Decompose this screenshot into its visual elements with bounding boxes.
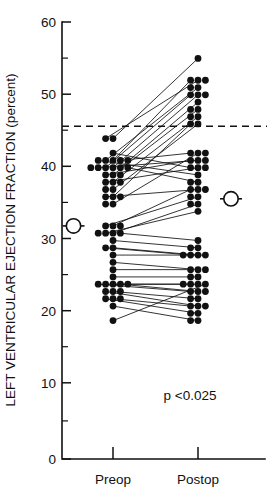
data-point-postop [195,106,202,113]
data-point-preop [110,244,117,251]
data-point-preop [102,135,109,142]
data-point-postop [195,237,202,244]
data-point-postop [195,193,202,200]
pair-connector [113,306,198,321]
data-point-postop [187,201,194,208]
data-point-postop [202,186,209,193]
data-point-postop [202,150,209,157]
data-point-preop [117,179,124,186]
data-point-postop [202,164,209,171]
data-point-postop [187,317,194,324]
x-tick-label-preop: Preop [95,472,131,487]
data-point-postop [202,157,209,164]
x-axis-ticks [113,447,198,459]
mean-marker-postop [220,192,242,206]
data-point-preop [110,186,117,193]
data-point-postop [187,77,194,84]
data-point-preop [102,230,109,237]
data-point-postop [195,157,202,164]
data-point-preop [95,157,102,164]
data-point-preop [124,281,131,288]
data-point-postop [195,179,202,186]
data-point-preop [124,164,131,171]
data-point-postop [195,113,202,120]
chart-figure: LEFT VENTRICULAR EJECTION FRACTION (perc… [0,0,267,495]
pair-connector [120,102,198,168]
data-point-postop [187,274,194,281]
data-point-postop [195,55,202,62]
data-point-preop [102,244,109,251]
data-point-postop [195,208,202,215]
data-point-preop [95,230,102,237]
data-point-postop [187,303,194,310]
data-point-preop [110,252,117,259]
data-point-preop [102,172,109,179]
data-point-preop [102,201,109,208]
data-point-postop [195,244,202,251]
pair-connector [113,262,198,269]
pair-connector [106,211,198,233]
data-point-postop [187,186,194,193]
data-point-postop [195,99,202,106]
data-point-postop [195,186,202,193]
data-point-postop [202,303,209,310]
data-point-postop [187,252,194,259]
data-point-preop [110,150,117,157]
data-point-postop [187,113,194,120]
y-axis-major-ticks [62,22,71,459]
data-point-postop [180,281,187,288]
data-point-postop [195,274,202,281]
data-point-preop [117,172,124,179]
data-point-preop [117,288,124,295]
data-point-postop [187,164,194,171]
data-point-preop [110,164,117,171]
y-tick-label-20: 20 [41,304,56,319]
data-point-preop [110,259,117,266]
data-point-postop [187,91,194,98]
data-point-preop [110,317,117,324]
pair-connector [113,241,198,248]
data-point-preop [117,193,124,200]
data-point-postop [195,91,202,98]
data-point-postop [195,288,202,295]
data-point-postop [195,201,202,208]
data-point-postop [202,252,209,259]
data-point-postop [187,288,194,295]
data-point-preop [95,164,102,171]
data-point-preop [117,230,124,237]
p-value-annotation: p <0.025 [164,388,217,403]
data-point-preop [110,274,117,281]
data-point-postop [202,281,209,288]
data-point-preop [102,193,109,200]
data-point-postop [187,193,194,200]
data-point-postop [187,157,194,164]
data-point-preop [102,223,109,230]
data-point-preop [102,164,109,171]
data-point-preop [110,295,117,302]
paired-dot-plot-svg: LEFT VENTRICULAR EJECTION FRACTION (perc… [0,0,267,495]
data-point-preop [110,281,117,288]
data-point-preop [102,186,109,193]
pair-connector [106,197,198,226]
data-point-postop [195,266,202,273]
data-point-postop [202,91,209,98]
data-point-postop [195,303,202,310]
data-point-postop [195,295,202,302]
data-point-preop [110,179,117,186]
y-tick-label-30: 30 [41,232,56,247]
data-point-postop [187,310,194,317]
data-point-preop [110,157,117,164]
data-point-postop [195,252,202,259]
data-point-postop [187,121,194,128]
data-point-postop [195,317,202,324]
data-point-preop [110,230,117,237]
data-point-postop [195,77,202,84]
y-tick-label-50: 50 [41,87,56,102]
pair-connector [106,88,198,161]
data-point-preop [117,164,124,171]
data-point-postop [180,252,187,259]
pair-connector [120,233,198,240]
pair-connector [113,80,191,160]
pair-connector [106,248,191,255]
mean-marker-preop [63,219,85,233]
